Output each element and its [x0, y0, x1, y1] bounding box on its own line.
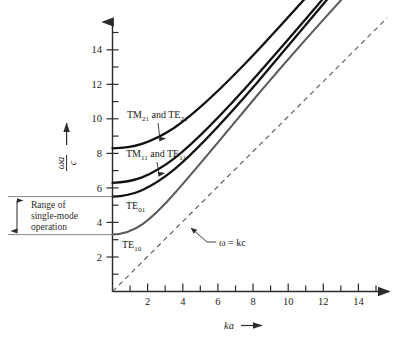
light-line-callout-leader: [191, 228, 207, 242]
y-axis-title-group: ωa c: [55, 123, 79, 171]
x-tick-labels: 2 4 6 8 10 12 14: [145, 296, 364, 307]
curve-label-te01-base: TE: [126, 200, 138, 211]
y-axis-title-numerator: ωa: [55, 157, 66, 170]
curve-label-tm11-sub2: 11: [179, 154, 186, 162]
range-label-line2: single-mode: [31, 211, 78, 221]
curve-label-tm21-sub2: 21: [180, 115, 188, 123]
curve-label-tm21-base: TM: [127, 109, 142, 120]
curve-label-tm21-mid: and TE: [149, 109, 180, 120]
y-tick-label-8: 8: [97, 148, 102, 159]
waveguide-dispersion-figure: 2 4 6 8 10 12 14 2 4: [0, 0, 411, 339]
y-tick-label-12: 12: [92, 79, 103, 90]
range-label-line3: operation: [31, 222, 67, 232]
x-tick-label-4: 4: [180, 296, 186, 307]
x-tick-label-14: 14: [353, 296, 364, 307]
y-tick-labels: 2 4 6 8 10 12 14: [92, 44, 103, 262]
x-axis-title-group: ka: [224, 320, 262, 331]
range-label-line1: Range of: [31, 200, 66, 210]
y-tick-label-14: 14: [92, 44, 103, 55]
curve-label-tm11-mid: and TE: [148, 148, 179, 159]
x-tick-marks: [130, 284, 376, 292]
light-line-callout-group: ω = kc: [191, 228, 246, 248]
curve-label-te10-base: TE: [122, 239, 134, 250]
curve-label-tm11-te11: TM11 and TE11: [126, 148, 186, 162]
light-line-callout-label: ω = kc: [219, 237, 246, 248]
x-tick-label-10: 10: [283, 296, 294, 307]
curve-label-tm11-base: TM: [126, 148, 141, 159]
y-tick-label-2: 2: [97, 252, 102, 263]
curve-label-tm21-te21: TM21 and TE21: [127, 109, 188, 123]
x-tick-label-12: 12: [318, 296, 329, 307]
x-tick-label-8: 8: [250, 296, 255, 307]
y-axis-title-denominator: c: [67, 160, 78, 165]
x-tick-label-2: 2: [145, 296, 150, 307]
x-tick-label-6: 6: [215, 296, 220, 307]
y-tick-label-10: 10: [92, 113, 103, 124]
curve-label-te10-sub: 10: [134, 245, 142, 253]
curve-tm21-te21: [113, 0, 340, 148]
y-tick-label-4: 4: [97, 217, 103, 228]
curve-label-te01: TE01: [126, 200, 146, 214]
y-tick-label-6: 6: [97, 183, 102, 194]
curve-label-te10: TE10: [122, 239, 142, 253]
curve-label-te01-sub: 01: [138, 206, 146, 214]
x-axis-title: ka: [224, 320, 234, 331]
dispersion-chart: 2 4 6 8 10 12 14 2 4: [0, 0, 411, 339]
range-annotation-group: Range of single-mode operation: [8, 197, 113, 235]
curve-te01: [113, 0, 374, 197]
